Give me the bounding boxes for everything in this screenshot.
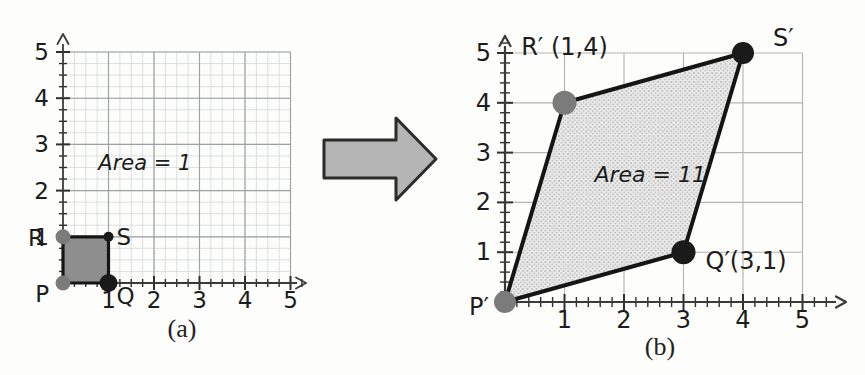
svg-text:5: 5 [476,39,491,67]
svg-text:1: 1 [476,238,491,266]
block-arrow-shape [324,118,436,200]
vertex-dot-a-0 [56,276,71,291]
vertex-label-a-0: P [35,281,49,307]
coordinate-plane-b: 1234512345Area = 11P′Q′(3,1)S′R′ (1,4) [432,0,865,340]
svg-text:4: 4 [34,85,49,111]
vertex-dot-a-3 [56,229,71,244]
vertex-dot-b-1 [672,240,696,264]
figure-canvas: 1234512345Area = 1PQSR 1234512345Area = … [0,0,865,375]
coordinate-plane-a: 1234512345Area = 1PQSR [0,0,325,340]
svg-text:3: 3 [676,306,691,334]
vertex-label-b-3: R′ (1,4) [521,33,608,61]
vertex-label-a-2: S [117,224,132,250]
svg-text:5: 5 [795,306,810,334]
vertex-dot-b-2 [732,42,754,64]
vertex-dot-b-3 [553,91,577,115]
vertex-label-a-3: R [28,225,44,251]
svg-text:5: 5 [34,39,49,65]
vertex-label-b-0: P′ [469,293,489,321]
svg-text:3: 3 [476,139,491,167]
vertex-label-b-1: Q′(3,1) [706,247,787,275]
svg-text:4: 4 [735,306,750,334]
right-block-arrow-icon [318,110,443,210]
vertex-dot-b-0 [494,291,516,313]
svg-text:2: 2 [476,188,491,216]
svg-text:4: 4 [238,287,253,313]
svg-text:2: 2 [34,178,49,204]
area-label-b: Area = 11 [592,162,706,187]
vertex-dot-a-1 [100,274,118,292]
caption-b: (b) [615,332,705,362]
vertex-label-b-2: S′ [773,24,794,52]
svg-text:2: 2 [616,306,631,334]
vertex-label-a-1: Q [117,283,135,309]
svg-text:3: 3 [192,287,207,313]
shape-a [63,237,109,283]
svg-text:3: 3 [34,131,49,157]
area-label-a: Area = 1 [96,151,191,175]
svg-text:2: 2 [147,287,162,313]
vertex-dot-a-2 [104,232,114,242]
svg-text:5: 5 [283,287,298,313]
svg-text:4: 4 [476,89,491,117]
svg-text:1: 1 [557,306,572,334]
caption-a: (a) [137,314,227,344]
